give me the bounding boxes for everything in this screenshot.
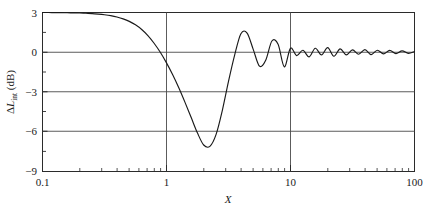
- chart-figure: 3 0 −3 −6 −9 0.1 1 10 100 X ΔLint (dB): [0, 0, 438, 208]
- x-tick-label-1: 1: [164, 176, 170, 188]
- x-tick-label-0point1: 0.1: [36, 176, 50, 188]
- figure-background: [0, 0, 438, 208]
- y-axis-title-delta: Δ: [4, 107, 16, 114]
- y-tick-label-0: 0: [32, 46, 38, 58]
- y-tick-label-minus6: −6: [25, 125, 37, 137]
- x-tick-label-100: 100: [406, 176, 423, 188]
- y-tick-label-minus3: −3: [25, 86, 37, 98]
- x-tick-label-10: 10: [285, 176, 297, 188]
- y-axis-title-L: L: [4, 101, 16, 108]
- x-axis-title: X: [224, 193, 233, 205]
- y-axis-title-units: (dB): [4, 70, 17, 93]
- y-tick-label-3: 3: [32, 7, 38, 19]
